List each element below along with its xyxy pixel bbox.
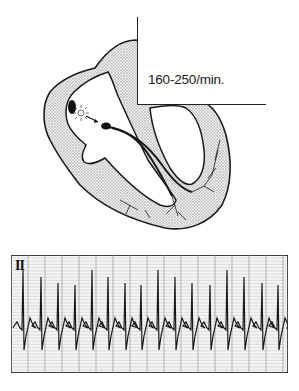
ecg-rhythm-strip (11, 255, 288, 373)
sa-node (68, 100, 76, 114)
ecg-lead-label: II (15, 258, 24, 274)
av-node (101, 123, 111, 130)
ectopic-focus-icon (73, 105, 89, 121)
heart-rate-callout: 160-250/min. (137, 17, 266, 105)
heart-rate-label: 160-250/min. (148, 72, 224, 87)
